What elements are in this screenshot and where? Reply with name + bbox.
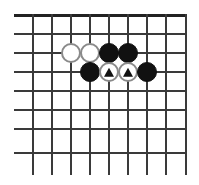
white-stone-f4-marked [118, 62, 138, 82]
black-stone-d4 [80, 62, 100, 82]
white-stone-c3 [61, 43, 81, 63]
black-stone-g4 [137, 62, 157, 82]
black-stone-e3 [99, 43, 119, 63]
board-stones [0, 0, 199, 185]
white-stone-d3 [80, 43, 100, 63]
black-stone-f3 [118, 43, 138, 63]
triangle-marker-icon [123, 68, 133, 77]
triangle-marker-icon [104, 68, 114, 77]
go-board-diagram [0, 0, 199, 185]
white-stone-e4-marked [99, 62, 119, 82]
